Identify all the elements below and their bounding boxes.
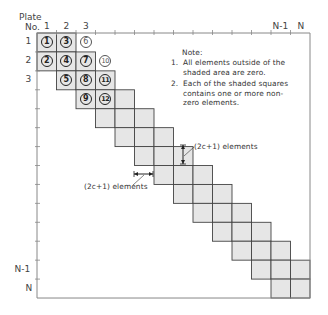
note-2-line1: Each of the shaded squares bbox=[183, 80, 288, 87]
row-label: 2 bbox=[26, 56, 32, 65]
column-label: N bbox=[298, 22, 305, 31]
shaded-cell bbox=[135, 147, 155, 166]
row-label: 1 bbox=[26, 37, 32, 46]
shaded-cell bbox=[213, 184, 233, 203]
shaded-cell bbox=[174, 184, 194, 203]
corner-label-plate: Plate bbox=[19, 13, 42, 22]
row-label: N bbox=[26, 284, 33, 293]
shaded-cell bbox=[252, 241, 272, 260]
shaded-cell bbox=[271, 241, 291, 260]
note-2-line2: contains one or more non- bbox=[183, 90, 283, 97]
column-label: N-1 bbox=[273, 22, 289, 31]
shaded-cell bbox=[96, 109, 116, 128]
note-2-num: 2. bbox=[171, 80, 178, 87]
shaded-cell bbox=[154, 147, 174, 166]
column-label: 3 bbox=[83, 22, 89, 31]
shaded-cell bbox=[271, 260, 291, 279]
shaded-cell bbox=[193, 203, 213, 222]
shaded-cell bbox=[154, 128, 174, 147]
shaded-cell bbox=[271, 279, 291, 298]
note-title: Note: bbox=[182, 49, 203, 56]
vertical-bandwidth-label: (2c+1) elements bbox=[194, 143, 258, 150]
corner-label-no: No. bbox=[25, 23, 40, 32]
shaded-cell bbox=[135, 128, 155, 147]
shaded-cell bbox=[291, 279, 311, 298]
shaded-cell bbox=[115, 128, 135, 147]
shaded-cell bbox=[252, 260, 272, 279]
horizontal-bandwidth-label: (2c+1) elements bbox=[84, 183, 148, 190]
shaded-cell bbox=[135, 109, 155, 128]
shaded-cell bbox=[213, 203, 233, 222]
note-2-line3: zero elements. bbox=[183, 99, 239, 106]
shaded-cell bbox=[213, 222, 233, 241]
column-label: 1 bbox=[44, 22, 50, 31]
shaded-cell bbox=[174, 166, 194, 185]
element-number-8: 8 bbox=[80, 74, 92, 86]
note-1-line1: All elements outside of the bbox=[183, 59, 285, 66]
shaded-cell bbox=[115, 109, 135, 128]
note-1-line2: shaded area are zero. bbox=[183, 69, 266, 76]
shaded-cell bbox=[193, 166, 213, 185]
shaded-cell bbox=[154, 166, 174, 185]
shaded-cell bbox=[291, 260, 311, 279]
shaded-cell bbox=[193, 184, 213, 203]
shaded-cell bbox=[232, 203, 252, 222]
shaded-cell bbox=[252, 222, 272, 241]
column-label: 2 bbox=[64, 22, 70, 31]
row-label: N-1 bbox=[15, 265, 31, 274]
shaded-cell bbox=[232, 222, 252, 241]
shaded-cell bbox=[115, 90, 135, 109]
element-number-9: 9 bbox=[80, 93, 92, 105]
shaded-cell bbox=[232, 241, 252, 260]
row-label: 3 bbox=[26, 75, 32, 84]
note-1-num: 1. bbox=[171, 59, 178, 66]
